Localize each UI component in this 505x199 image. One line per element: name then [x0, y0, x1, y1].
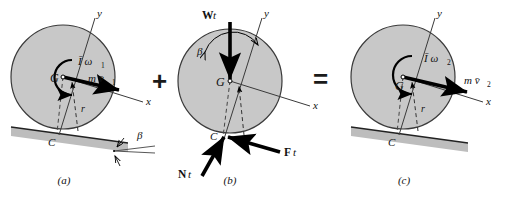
svg-text:2: 2 — [487, 80, 491, 89]
svg-text:Ī ω: Ī ω — [423, 52, 438, 64]
y-axis-label-b: y — [263, 7, 269, 19]
x-axis-label-b: x — [312, 99, 318, 111]
panel-c: y x G C r Ī ω 2 m v̄ 2 (c) — [340, 0, 505, 199]
svg-text:2: 2 — [447, 58, 451, 67]
normal-impulse-vector-b — [202, 137, 224, 176]
panel-a: y x G C r β Ī ω 1 m v̄ 1 (a) — [0, 0, 165, 199]
y-axis-label-a: y — [96, 7, 102, 19]
beta-label-b: β — [196, 45, 203, 57]
center-label-a: G — [50, 71, 59, 85]
radius-label-a: r — [81, 103, 85, 114]
beta-label-a: β — [136, 129, 143, 141]
svg-text:m v̄: m v̄ — [464, 74, 480, 86]
contact-label-c: C — [388, 136, 396, 148]
x-axis-label-a: x — [145, 95, 151, 107]
svg-text:t: t — [188, 168, 192, 180]
panel-b: y x G C β W t F t N t (b) — [172, 0, 332, 199]
linear-momentum-label-c: m v̄ 2 — [464, 74, 491, 89]
ground-plate-a — [11, 127, 128, 152]
center-label-c: G — [395, 79, 404, 93]
caption-a: (a) — [58, 174, 71, 187]
svg-text:1: 1 — [112, 78, 116, 87]
ground-plate-c — [351, 127, 468, 152]
caption-c: (c) — [398, 174, 411, 187]
svg-text:t: t — [293, 146, 297, 158]
center-point-b — [228, 79, 232, 83]
center-point-a — [61, 75, 65, 79]
equals-operator: = — [313, 66, 328, 92]
svg-text:m v̄: m v̄ — [88, 72, 104, 84]
contact-label-a: C — [48, 136, 56, 148]
contact-label-b: C — [210, 130, 218, 142]
svg-text:Ī ω: Ī ω — [77, 55, 92, 67]
friction-impulse-vector-b — [228, 137, 280, 152]
radius-label-c: r — [421, 103, 425, 114]
center-label-b: G — [216, 75, 225, 89]
weight-impulse-label-b: W t — [202, 9, 217, 21]
y-axis-label-c: y — [436, 7, 442, 19]
svg-text:F: F — [284, 146, 291, 158]
normal-impulse-label-b: N t — [178, 168, 192, 180]
svg-text:1: 1 — [101, 61, 105, 70]
x-axis-label-c: x — [485, 95, 491, 107]
svg-text:N: N — [178, 168, 187, 180]
caption-b: (b) — [224, 174, 237, 187]
impulse-momentum-diagram: y x G C r β Ī ω 1 m v̄ 1 (a) + — [0, 0, 505, 199]
plus-operator: + — [152, 68, 167, 94]
svg-text:t: t — [213, 9, 217, 21]
friction-impulse-label-b: F t — [284, 146, 297, 158]
